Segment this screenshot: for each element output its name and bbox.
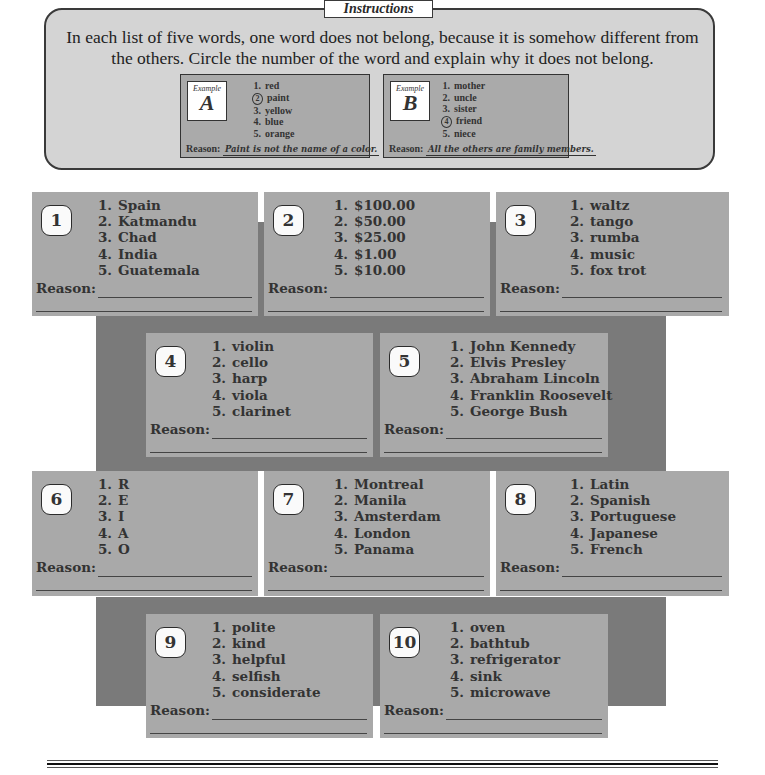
list-item[interactable]: 5.microwave [444, 684, 560, 700]
reason-answer-line[interactable] [212, 719, 367, 720]
list-item[interactable]: 4.Japanese [564, 525, 676, 541]
list-item: 1.red [247, 80, 294, 92]
list-item[interactable]: 2.Manila [328, 492, 441, 508]
reason-answer-line[interactable] [330, 297, 484, 298]
question-number-badge: 2 [273, 205, 304, 236]
word-list: 1.violin 2.cello 3.harp 4.viola 5.clarin… [206, 338, 291, 419]
list-item[interactable]: 2.bathtub [444, 635, 560, 651]
list-item[interactable]: 5.Panama [328, 541, 441, 557]
reason-answer-line[interactable] [500, 590, 722, 591]
list-item[interactable]: 3.Abraham Lincoln [444, 370, 612, 386]
list-item[interactable]: 4.sink [444, 668, 560, 684]
reason-label: Reason: [268, 280, 328, 296]
example-word-list: 1.mother 2.uncle 3.sister 4friend 5.niec… [436, 80, 485, 139]
reason-answer-line[interactable] [150, 452, 367, 453]
reason-label: Reason: [500, 280, 560, 296]
list-item[interactable]: 3.refrigerator [444, 651, 560, 667]
reason-answer-line[interactable] [562, 576, 722, 577]
list-item[interactable]: 1.oven [444, 619, 560, 635]
list-item[interactable]: 1.Montreal [328, 476, 441, 492]
list-item[interactable]: 4.selfish [206, 668, 320, 684]
reason-answer-line[interactable] [36, 590, 252, 591]
word-list: 1.$100.00 2.$50.00 3.$25.00 4.$1.00 5.$1… [328, 197, 415, 278]
list-item: 2.uncle [436, 92, 485, 104]
reason-answer-line[interactable] [150, 733, 367, 734]
list-item[interactable]: 5.considerate [206, 684, 320, 700]
reason-answer-line[interactable] [500, 311, 722, 312]
reason-answer-line[interactable] [330, 576, 484, 577]
reason-label: Reason: [268, 559, 328, 575]
list-item[interactable]: 3.$25.00 [328, 229, 415, 245]
reason-answer-line[interactable] [36, 311, 252, 312]
list-item[interactable]: 1.$100.00 [328, 197, 415, 213]
example-badge: Example B [390, 81, 430, 121]
list-item[interactable]: 1.Latin [564, 476, 676, 492]
word-list: 1.polite 2.kind 3.helpful 4.selfish 5.co… [206, 619, 320, 700]
list-item-circled: 2paint [247, 92, 294, 105]
example-reason-answer: Paint is not the name of a color. [223, 144, 379, 156]
list-item[interactable]: 1.polite [206, 619, 320, 635]
reason-answer-line[interactable] [384, 452, 602, 453]
question-card-1: 1 1.Spain 2.Katmandu 3.Chad 4.India 5.Gu… [32, 192, 258, 316]
reason-answer-line[interactable] [268, 590, 484, 591]
example-letter: B [391, 93, 429, 113]
list-item[interactable]: 5.$10.00 [328, 262, 415, 278]
list-item[interactable]: 2.tango [564, 213, 646, 229]
list-item[interactable]: 2.cello [206, 354, 291, 370]
list-item[interactable]: 3.harp [206, 370, 291, 386]
list-item[interactable]: 5.George Bush [444, 403, 612, 419]
list-item[interactable]: 1.violin [206, 338, 291, 354]
list-item[interactable]: 4.India [92, 246, 200, 262]
list-item[interactable]: 5.O [92, 541, 130, 557]
list-item[interactable]: 5.French [564, 541, 676, 557]
list-item[interactable]: 1.waltz [564, 197, 646, 213]
reason-label: Reason: [150, 702, 210, 718]
list-item[interactable]: 3.rumba [564, 229, 646, 245]
example-reason-answer: All the others are family members. [426, 144, 596, 156]
question-card-4: 4 1.violin 2.cello 3.harp 4.viola 5.clar… [146, 333, 373, 457]
reason-answer-line[interactable] [562, 297, 722, 298]
reason-answer-line[interactable] [98, 297, 252, 298]
list-item: 3.sister [436, 103, 485, 115]
question-number-badge: 3 [505, 205, 536, 236]
word-list: 1.Montreal 2.Manila 3.Amsterdam 4.London… [328, 476, 441, 557]
list-item[interactable]: 1.John Kennedy [444, 338, 612, 354]
list-item[interactable]: 4.Franklin Roosevelt [444, 387, 612, 403]
list-item[interactable]: 4.$1.00 [328, 246, 415, 262]
list-item[interactable]: 2.E [92, 492, 130, 508]
list-item[interactable]: 5.fox trot [564, 262, 646, 278]
reason-answer-line[interactable] [98, 576, 252, 577]
list-item: 4.blue [247, 116, 294, 128]
list-item[interactable]: 3.Amsterdam [328, 508, 441, 524]
example-card-a: Example A 1.red 2paint 3.yellow 4.blue 5… [180, 74, 370, 158]
list-item[interactable]: 3.Chad [92, 229, 200, 245]
list-item[interactable]: 2.$50.00 [328, 213, 415, 229]
list-item[interactable]: 1.Spain [92, 197, 200, 213]
question-number-badge: 5 [389, 346, 420, 377]
reason-answer-line[interactable] [268, 311, 484, 312]
list-item[interactable]: 1.R [92, 476, 130, 492]
list-item[interactable]: 4.A [92, 525, 130, 541]
word-list: 1.Latin 2.Spanish 3.Portuguese 4.Japanes… [564, 476, 676, 557]
list-item[interactable]: 4.viola [206, 387, 291, 403]
list-item[interactable]: 2.Elvis Presley [444, 354, 612, 370]
list-item[interactable]: 4.London [328, 525, 441, 541]
reason-answer-line[interactable] [212, 438, 367, 439]
list-item[interactable]: 2.kind [206, 635, 320, 651]
list-item[interactable]: 2.Katmandu [92, 213, 200, 229]
list-item[interactable]: 4.music [564, 246, 646, 262]
reason-answer-line[interactable] [446, 438, 602, 439]
reason-label: Reason: [500, 559, 560, 575]
reason-answer-line[interactable] [446, 719, 602, 720]
list-item[interactable]: 5.clarinet [206, 403, 291, 419]
list-item[interactable]: 5.Guatemala [92, 262, 200, 278]
list-item[interactable]: 3.I [92, 508, 130, 524]
list-item[interactable]: 3.Portuguese [564, 508, 676, 524]
reason-answer-line[interactable] [384, 733, 602, 734]
list-item[interactable]: 2.Spanish [564, 492, 676, 508]
question-card-10: 10 1.oven 2.bathtub 3.refrigerator 4.sin… [380, 614, 608, 738]
question-number-badge: 9 [155, 627, 186, 658]
list-item[interactable]: 3.helpful [206, 651, 320, 667]
footer-rule [47, 763, 718, 765]
question-number-badge: 4 [155, 346, 186, 377]
